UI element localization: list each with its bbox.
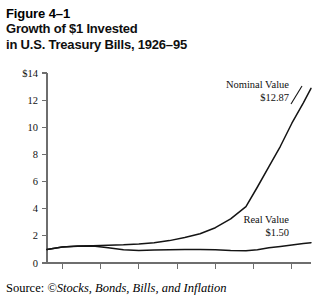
figure-container: Figure 4–1 Growth of $1 Invested in U.S.… [0, 0, 315, 303]
y-tick-label: 10 [28, 122, 39, 133]
x-tick-label: 1930 [52, 271, 73, 272]
series-line-real-value [47, 243, 311, 251]
y-tick-label: 8 [33, 149, 38, 160]
figure-title-line-1: Growth of $1 Invested [6, 21, 306, 37]
x-axis: 1930194019501960197019801990 [47, 263, 311, 272]
source-label: Source: [6, 281, 47, 295]
series-line-nominal-value [47, 88, 311, 249]
y-axis: 024681012$14 [22, 68, 47, 269]
y-axis-ticks: 024681012$14 [22, 68, 47, 269]
y-tick-label: $14 [22, 68, 39, 79]
source-citation: ©Stocks, Bonds, Bills, and Inflation [47, 281, 226, 295]
x-tick-label: 1960 [167, 271, 188, 272]
x-tick-label: 1940 [90, 271, 111, 272]
x-tick-label: 1990 [281, 271, 302, 272]
annotation-value: $12.87 [260, 92, 289, 103]
annotation-leader [291, 86, 302, 104]
y-tick-label: 0 [33, 258, 38, 269]
chart-area: 024681012$14 193019401950196019701980199… [0, 60, 315, 272]
source-line: Source: ©Stocks, Bonds, Bills, and Infla… [6, 281, 311, 296]
x-tick-label: 1950 [128, 271, 149, 272]
x-tick-label: 1970 [205, 271, 226, 272]
annotation-value: $1.50 [265, 227, 289, 238]
x-tick-label: 1980 [243, 271, 264, 272]
y-tick-label: 4 [33, 203, 39, 214]
figure-number: Figure 4–1 [6, 6, 306, 21]
figure-title-block: Figure 4–1 Growth of $1 Invested in U.S.… [6, 6, 306, 53]
y-tick-label: 12 [28, 95, 39, 106]
annotation-name: Nominal Value [226, 79, 289, 90]
y-tick-label: 2 [33, 230, 38, 241]
y-tick-label: 6 [33, 176, 38, 187]
line-chart: 024681012$14 193019401950196019701980199… [0, 60, 315, 272]
figure-title-line-2: in U.S. Treasury Bills, 1926–95 [6, 37, 306, 53]
x-axis-ticks: 1930194019501960197019801990 [52, 263, 303, 272]
annotation-name: Real Value [243, 214, 289, 225]
